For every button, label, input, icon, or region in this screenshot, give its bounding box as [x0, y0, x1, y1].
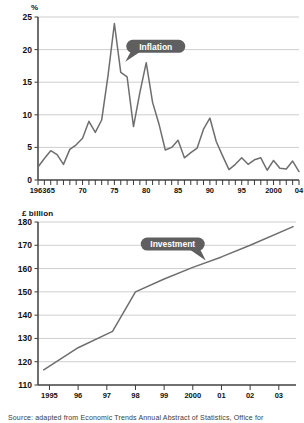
y-tick-label: 20 [23, 45, 33, 55]
x-tick-label: 70 [78, 186, 86, 195]
y-tick-label: 110 [18, 380, 32, 390]
x-tick-label: 01 [217, 391, 225, 400]
y-tick-label: 130 [18, 333, 32, 343]
x-tick-label: 99 [160, 391, 168, 400]
x-tick-label: 95 [238, 186, 246, 195]
y-tick-label: 15 [23, 77, 33, 87]
callout-label: Inflation [139, 42, 172, 52]
y-tick-label: 180 [18, 217, 32, 227]
inflation-chart: % 0510152025196365707580859095200004Infl… [0, 0, 304, 200]
x-tick-label: 96 [74, 391, 82, 400]
y-tick-label: 25 [23, 12, 33, 22]
y-tick-label: 120 [18, 357, 32, 367]
callout-inflation: Inflation [125, 40, 185, 62]
callout-label: Investment [150, 239, 195, 249]
x-tick-label: 97 [103, 391, 111, 400]
x-tick-label: 90 [206, 186, 214, 195]
y-tick-label: 10 [23, 110, 33, 120]
x-tick-label: 02 [246, 391, 254, 400]
x-tick-label: 98 [131, 391, 139, 400]
x-tick-label: 80 [142, 186, 150, 195]
x-tick-label: 65 [47, 186, 55, 195]
investment-chart: £ billion 110120130140150160170180199596… [0, 205, 304, 405]
y-tick-label: 0 [27, 175, 32, 185]
y-tick-label: 150 [18, 287, 32, 297]
investment-plot: 1101201301401501601701801995969798992000… [0, 205, 304, 405]
x-tick-label: 2000 [265, 186, 282, 195]
source-note: Source: adapted from Economic Trends Ann… [8, 414, 304, 421]
x-tick-label: 2000 [184, 391, 201, 400]
y-tick-label: 160 [18, 264, 32, 274]
x-tick-label: 03 [275, 391, 283, 400]
y-tick-label: 170 [18, 240, 32, 250]
callout-investment: Investment [141, 238, 206, 261]
y-tick-label: 140 [18, 310, 32, 320]
x-tick-label: 04 [295, 186, 304, 195]
inflation-plot: 0510152025196365707580859095200004Inflat… [0, 0, 304, 200]
x-tick-label: 75 [110, 186, 118, 195]
x-tick-label: 1995 [41, 391, 58, 400]
x-tick-label: 85 [174, 186, 182, 195]
y-tick-label: 5 [27, 142, 32, 152]
x-tick-label: 1963 [30, 186, 47, 195]
